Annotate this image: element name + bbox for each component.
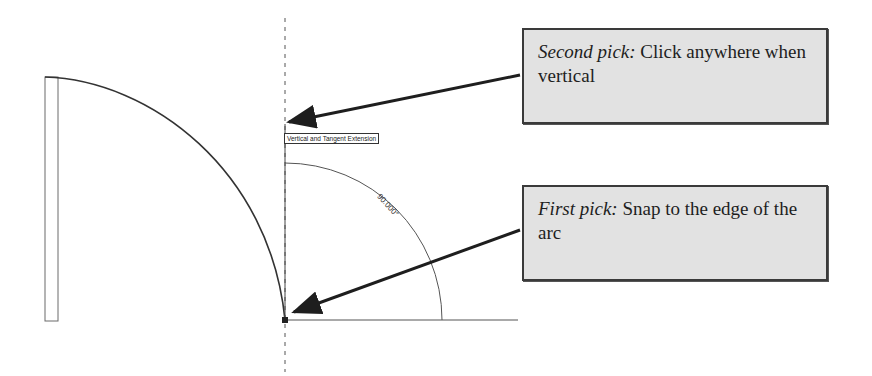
second-pick-lead: Second pick: bbox=[538, 41, 636, 62]
second-pick-callout: Second pick: Click anywhere when vertica… bbox=[522, 28, 828, 124]
snap-tooltip: Vertical and Tangent Extension bbox=[284, 133, 379, 144]
angle-dimension-arc bbox=[285, 163, 442, 320]
second-pick-arrow bbox=[289, 75, 520, 122]
first-pick-lead: First pick: bbox=[538, 198, 618, 219]
jamb-rectangle bbox=[45, 77, 58, 321]
snap-point-marker[interactable] bbox=[282, 317, 288, 323]
first-pick-arrow bbox=[294, 230, 520, 312]
first-pick-callout: First pick: Snap to the edge of the arc bbox=[522, 185, 828, 281]
main-arc[interactable] bbox=[45, 77, 285, 320]
